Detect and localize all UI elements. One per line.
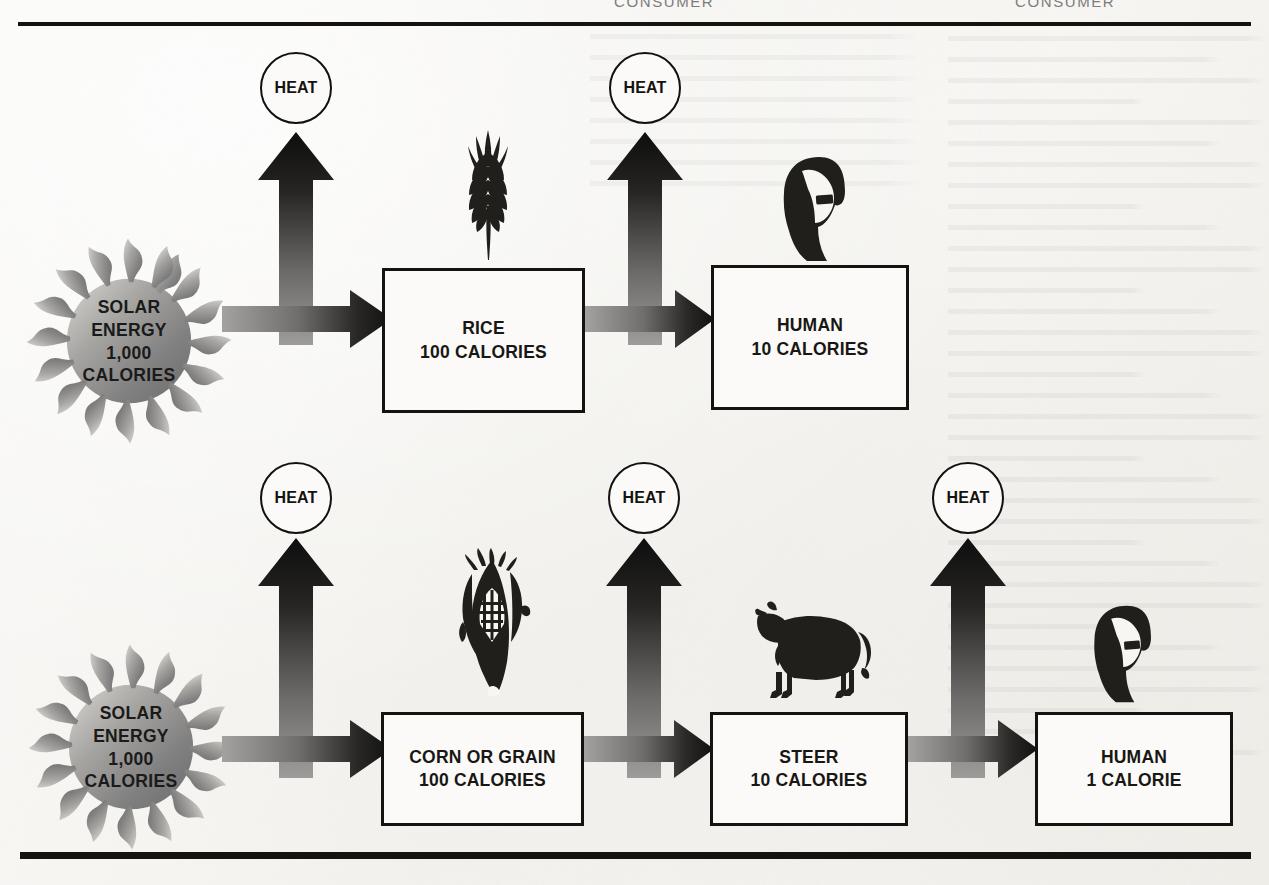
arrow-branch-bottom-1: [222, 528, 392, 778]
box-human-bottom-line-2: 1 CALORIE: [1086, 769, 1181, 792]
box-human-top-line-1: HUMAN: [752, 314, 869, 337]
cut-header-label-2: CONSUMER: [1015, 0, 1115, 10]
human-head-icon-bottom: [1086, 604, 1166, 704]
heat-circle-top-1: HEAT: [260, 52, 332, 124]
arrow-branch-bottom-2: [584, 528, 714, 778]
corn-cob-icon: [452, 548, 532, 704]
heat-label: HEAT: [274, 489, 317, 507]
heat-label: HEAT: [946, 489, 989, 507]
wheat-stalk-icon: [452, 122, 524, 262]
cut-header-label-1: CONSUMER: [614, 0, 714, 10]
heat-label: HEAT: [274, 79, 317, 97]
human-head-icon-top: [775, 155, 861, 263]
rule-top: [18, 22, 1251, 26]
box-steer-line-2: 10 CALORIES: [751, 769, 868, 792]
box-corn-line-1: CORN OR GRAIN: [409, 746, 556, 769]
steer-icon: [754, 598, 884, 702]
heat-label: HEAT: [623, 79, 666, 97]
box-rice: RICE 100 CALORIES: [382, 268, 585, 413]
box-human-top: HUMAN 10 CALORIES: [711, 265, 909, 410]
heat-circle-bottom-2: HEAT: [608, 462, 680, 534]
heat-circle-bottom-3: HEAT: [932, 462, 1004, 534]
box-corn-or-grain: CORN OR GRAIN 100 CALORIES: [381, 712, 584, 826]
box-human-bottom: HUMAN 1 CALORIE: [1035, 712, 1233, 826]
heat-circle-bottom-1: HEAT: [260, 462, 332, 534]
sun-graphic-top: SOLAR ENERGY 1,000 CALORIES: [20, 232, 238, 450]
box-rice-line-2: 100 CALORIES: [420, 341, 547, 364]
heat-label: HEAT: [622, 489, 665, 507]
sun-graphic-bottom: SOLAR ENERGY 1,000 CALORIES: [22, 638, 240, 856]
box-steer: STEER 10 CALORIES: [710, 712, 908, 826]
box-rice-line-1: RICE: [420, 317, 547, 340]
sun-icon: [20, 232, 238, 450]
arrow-branch-top-1: [222, 120, 392, 345]
box-steer-line-1: STEER: [751, 746, 868, 769]
heat-circle-top-2: HEAT: [609, 52, 681, 124]
box-human-top-line-2: 10 CALORIES: [752, 338, 869, 361]
box-corn-line-2: 100 CALORIES: [409, 769, 556, 792]
sun-icon: [22, 638, 240, 856]
box-human-bottom-line-1: HUMAN: [1086, 746, 1181, 769]
figure-page: CONSUMER CONSUMER: [0, 0, 1269, 885]
arrow-branch-top-2: [585, 120, 715, 345]
arrow-branch-bottom-3: [908, 528, 1038, 778]
